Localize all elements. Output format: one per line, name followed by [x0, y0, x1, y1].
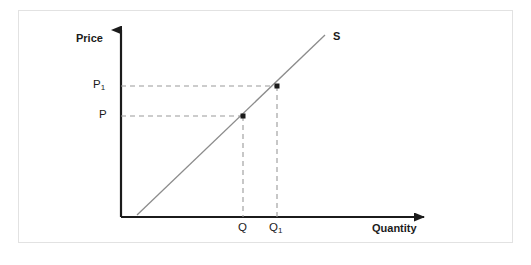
x-tick-label-q1: Q1 [269, 221, 282, 233]
y-tick-label-p1-subscript: 1 [101, 83, 105, 92]
y-tick-label-p1: P1 [93, 78, 105, 90]
data-point-p-q [241, 114, 246, 119]
x-axis-title: Quantity [372, 222, 417, 234]
x-tick-label-q1-subscript: 1 [278, 226, 282, 235]
y-tick-label-p: P [99, 108, 107, 120]
supply-curve-figure: Price Quantity P1 P Q Q1 S [0, 0, 531, 265]
x-tick-label-q: Q [238, 221, 247, 233]
y-tick-label-p1-text: P [93, 78, 101, 90]
data-point-p1-q1 [275, 84, 280, 89]
y-axis-title: Price [76, 32, 103, 44]
supply-curve-label: S [333, 30, 340, 42]
x-tick-label-q1-text: Q [269, 221, 278, 233]
supply-curve-line [137, 35, 325, 215]
